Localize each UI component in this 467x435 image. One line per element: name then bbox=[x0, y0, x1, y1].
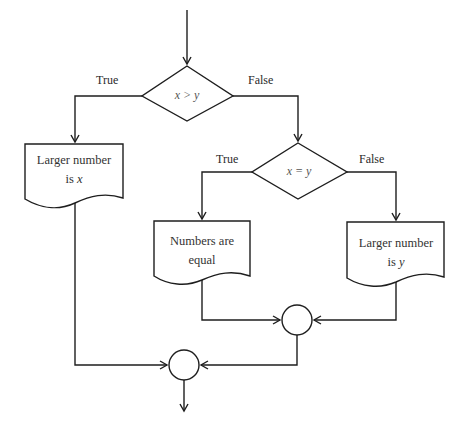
edge-o1-c2 bbox=[75, 203, 167, 365]
edge-o3-c1 bbox=[314, 282, 396, 320]
output-3-line2: is y bbox=[359, 253, 433, 272]
output-1-prefix: is bbox=[65, 172, 76, 186]
output-3-var: y bbox=[399, 255, 405, 269]
output-1-line2: is x bbox=[37, 170, 111, 189]
output-3-line1: Larger number bbox=[359, 234, 433, 253]
output-2-prefix: equal bbox=[188, 253, 215, 267]
output-2-line2: equal bbox=[170, 251, 234, 270]
edge-d2-true bbox=[202, 172, 252, 219]
output-2-text: Numbers are equal bbox=[170, 232, 234, 270]
d2-false-label: False bbox=[359, 153, 384, 165]
output-3-prefix: is bbox=[387, 255, 398, 269]
d1-false-label: False bbox=[248, 74, 273, 86]
d1-true-label: True bbox=[96, 74, 118, 86]
flowchart-canvas bbox=[0, 0, 467, 435]
edge-d1-false bbox=[233, 96, 298, 141]
connector-1 bbox=[282, 305, 312, 335]
output-2-line1: Numbers are bbox=[170, 232, 234, 251]
edge-o2-c1 bbox=[202, 280, 280, 320]
edge-d2-false bbox=[347, 172, 396, 220]
output-1-line1: Larger number bbox=[37, 151, 111, 170]
edge-c1-c2 bbox=[201, 335, 297, 365]
d1-condition: x > y bbox=[175, 88, 200, 103]
d2-condition: x = y bbox=[287, 164, 312, 179]
output-3-text: Larger number is y bbox=[359, 234, 433, 272]
d2-true-label: True bbox=[216, 153, 238, 165]
output-1-text: Larger number is x bbox=[37, 151, 111, 189]
edge-d1-true bbox=[75, 96, 142, 142]
connector-2 bbox=[169, 350, 199, 380]
output-1-var: x bbox=[77, 172, 83, 186]
